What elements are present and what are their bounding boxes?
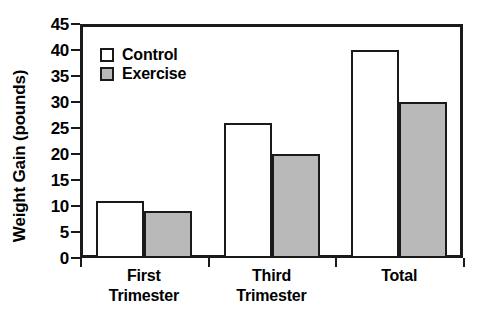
legend-swatch-exercise-icon [100,67,114,81]
y-axis-tick-label: 25 [21,120,69,137]
y-axis-tick [71,101,80,103]
x-axis-category-label: FirstTrimester [80,266,208,306]
y-axis-tick-label: 15 [21,172,69,189]
bar-exercise-total [399,102,447,258]
y-axis-tick-label: 35 [21,68,69,85]
bar-exercise-first-trimester [144,211,192,258]
y-axis-tick [71,205,80,207]
y-axis-tick-label: 10 [21,198,69,215]
y-axis-tick [71,153,80,155]
y-axis-tick [71,49,80,51]
y-axis-tick [71,127,80,129]
x-axis-tick [80,258,82,267]
legend-item-control: Control [100,47,186,63]
x-axis-label-line: Trimester [208,286,336,306]
x-axis-label-line: Total [335,266,463,286]
legend-label-control: Control [122,47,177,63]
legend-item-exercise: Exercise [100,66,186,82]
legend-label-exercise: Exercise [122,66,186,82]
x-axis-category-labels: FirstTrimesterThirdTrimesterTotal [80,266,463,312]
bar-exercise-third-trimester [272,154,320,258]
y-axis-tick-label: 40 [21,42,69,59]
x-axis-tick [208,258,210,267]
y-axis-tick-label: 30 [21,94,69,111]
y-axis-tick [71,75,80,77]
y-axis-tick [71,257,80,259]
y-axis-tick [71,23,80,25]
y-axis-tick-labels: 051015202530354045 [0,0,69,312]
x-axis-label-line: Trimester [80,286,208,306]
x-axis-tick [335,258,337,267]
bar-control-first-trimester [96,201,144,258]
x-axis-tick [463,258,465,267]
y-axis-tick-label: 0 [21,250,69,267]
bar-chart-figure: Weight Gain (pounds) 051015202530354045 … [0,0,485,312]
x-axis-category-label: Total [335,266,463,286]
y-axis-tick-label: 5 [21,224,69,241]
x-axis-label-line: Third [208,266,336,286]
x-axis-label-line: First [80,266,208,286]
y-axis-tick-label: 45 [21,16,69,33]
y-axis-tick-label: 20 [21,146,69,163]
y-axis-tick [71,231,80,233]
y-axis-tick [71,179,80,181]
chart-legend: Control Exercise [100,47,186,82]
bar-control-total [351,50,399,258]
bar-control-third-trimester [224,123,272,258]
x-axis-category-label: ThirdTrimester [208,266,336,306]
legend-swatch-control-icon [100,48,114,62]
